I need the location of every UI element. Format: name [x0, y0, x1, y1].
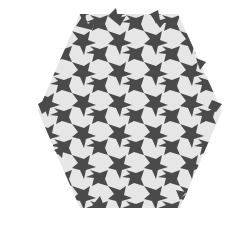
tile-pattern [0, 0, 248, 226]
tessellation-artwork [0, 0, 248, 226]
